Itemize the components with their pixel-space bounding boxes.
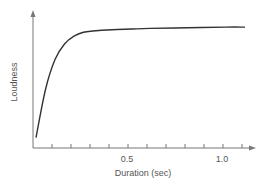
y-axis-label: Loudness (9, 62, 19, 102)
x-ticks (52, 144, 242, 148)
x-tick-label-0.5: 0.5 (121, 154, 134, 164)
loudness-duration-chart: 0.5 1.0 Duration (sec) Loudness (0, 0, 266, 182)
y-axis-arrow-icon (31, 10, 36, 17)
x-tick-label-1.0: 1.0 (216, 154, 229, 164)
loudness-curve (36, 27, 245, 138)
x-axis-label: Duration (sec) (115, 168, 172, 178)
x-axis-arrow-icon (249, 146, 256, 151)
